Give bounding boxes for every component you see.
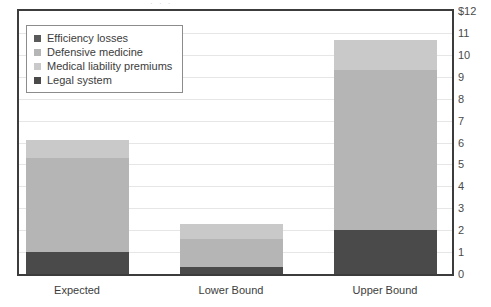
legend-swatch-icon xyxy=(34,63,41,70)
bar-segment xyxy=(26,140,129,158)
y-axis-labels: 01234567891011$12 xyxy=(458,0,491,307)
legend-swatch-icon xyxy=(34,35,41,42)
y-axis-tick-label: 5 xyxy=(458,158,488,170)
bar-segment xyxy=(334,70,437,230)
x-axis-tick-label: Expected xyxy=(54,284,100,296)
bar-segment xyxy=(180,267,283,274)
y-axis-tick-label: 11 xyxy=(458,27,488,39)
legend-label: Defensive medicine xyxy=(47,45,143,59)
legend-swatch-icon xyxy=(34,77,41,84)
bar-segment xyxy=(26,158,129,252)
legend-label: Efficiency losses xyxy=(47,31,128,45)
legend-label: Legal system xyxy=(47,73,112,87)
y-axis-tick-label: 3 xyxy=(458,202,488,214)
legend-label: Medical liability premiums xyxy=(47,59,172,73)
bar-segment xyxy=(26,252,129,274)
y-axis-tick-label: 0 xyxy=(458,268,488,280)
x-axis-tick-label: Lower Bound xyxy=(199,284,264,296)
y-axis-tick-label: 4 xyxy=(458,180,488,192)
legend-item: Efficiency losses xyxy=(34,31,172,45)
y-axis-tick-label: 9 xyxy=(458,71,488,83)
legend-swatch-icon xyxy=(34,49,41,56)
y-axis-tick-label: 8 xyxy=(458,93,488,105)
legend-item: Medical liability premiums xyxy=(34,59,172,73)
bar-segment xyxy=(334,230,437,274)
legend-item: Legal system xyxy=(34,73,172,87)
y-axis-tick-label: 7 xyxy=(458,115,488,127)
clipped-top-text: · · · xyxy=(0,0,491,7)
legend-item: Defensive medicine xyxy=(34,45,172,59)
bar-group xyxy=(180,11,283,274)
x-axis-labels: ExpectedLower BoundUpper Bound xyxy=(0,284,491,304)
y-axis-tick-label: 6 xyxy=(458,137,488,149)
y-axis-tick-label: 1 xyxy=(458,246,488,258)
bar-segment xyxy=(180,224,283,239)
bar-segment xyxy=(334,40,437,71)
y-axis-tick-label: 2 xyxy=(458,224,488,236)
bar-group xyxy=(334,11,437,274)
y-axis-tick-label: 10 xyxy=(458,49,488,61)
x-axis-tick-label: Upper Bound xyxy=(353,284,418,296)
chart-legend: Efficiency lossesDefensive medicineMedic… xyxy=(26,25,183,93)
chart-screenshot: · · · 01234567891011$12 ExpectedLower Bo… xyxy=(0,0,491,307)
y-axis-tick-label: $12 xyxy=(458,5,488,17)
bar-segment xyxy=(180,239,283,267)
